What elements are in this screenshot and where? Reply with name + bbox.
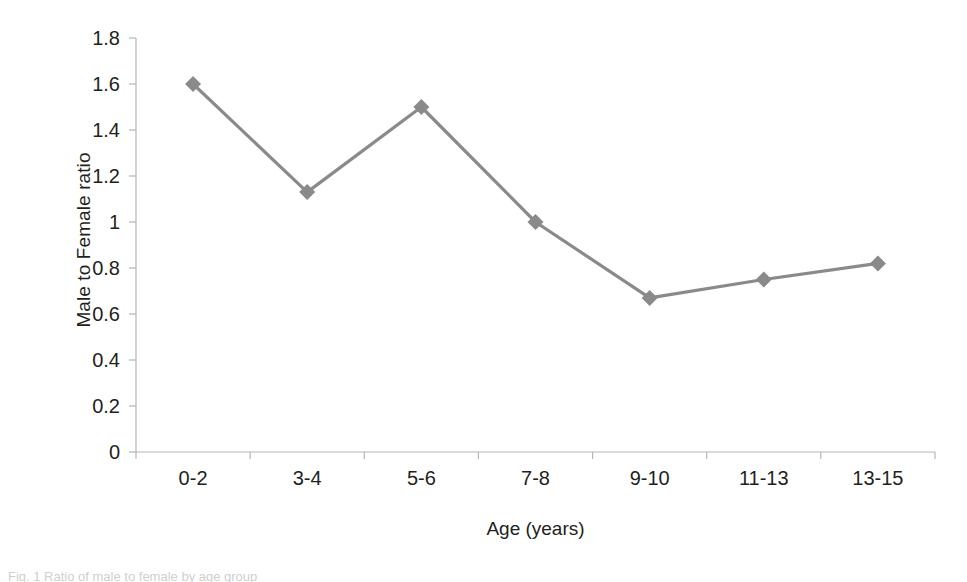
y-axis-tick-label: 0.8 (58, 258, 120, 278)
x-axis-tick-labels: 0-23-45-67-89-1011-1313-15 (136, 466, 935, 500)
data-point-marker (756, 272, 772, 288)
data-line (193, 84, 878, 298)
figure-caption: Fig. 1 Ratio of male to female by age gr… (8, 570, 508, 582)
y-axis-tick-label: 1.2 (58, 166, 120, 186)
plot-svg (136, 38, 935, 452)
x-axis-tick-label: 13-15 (852, 466, 903, 490)
plot-area (136, 38, 935, 452)
x-axis-tick-label: 3-4 (293, 466, 322, 490)
y-axis-tick-label: 1 (58, 212, 120, 232)
y-axis-tick-label: 0.2 (58, 396, 120, 416)
y-axis-tick-label: 1.4 (58, 120, 120, 140)
x-axis-tick-label: 5-6 (407, 466, 436, 490)
y-axis-tick-label: 0 (58, 442, 120, 462)
y-axis-tick-label: 0.4 (58, 350, 120, 370)
axis-lines (136, 38, 935, 452)
y-axis-tick-label: 1.8 (58, 28, 120, 48)
data-markers (185, 76, 886, 306)
x-axis-tick-label: 11-13 (739, 466, 789, 490)
y-axis-tick-label: 0.6 (58, 304, 120, 324)
x-axis-tick-label: 9-10 (630, 466, 670, 490)
axis-ticks (129, 38, 935, 459)
data-point-marker (870, 255, 886, 271)
x-axis-title: Age (years) (136, 518, 935, 540)
x-axis-tick-label: 7-8 (521, 466, 550, 490)
y-axis-tick-label: 1.6 (58, 74, 120, 94)
x-axis-tick-label: 0-2 (179, 466, 208, 490)
y-axis-tick-labels: 00.20.40.60.811.21.41.61.8 (58, 38, 120, 452)
